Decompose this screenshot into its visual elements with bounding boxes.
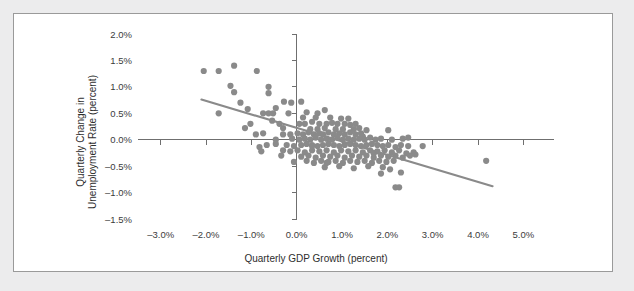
data-point bbox=[327, 114, 333, 120]
data-point bbox=[296, 121, 302, 127]
data-point bbox=[302, 136, 308, 142]
data-point bbox=[385, 142, 391, 148]
x-tick-label: 3.0% bbox=[422, 229, 444, 240]
y-tick-label: 1.0% bbox=[110, 81, 132, 92]
data-point bbox=[342, 121, 348, 127]
data-point bbox=[291, 159, 297, 165]
data-point bbox=[294, 147, 300, 153]
data-point bbox=[305, 152, 311, 158]
y-tick-label: 0.5% bbox=[110, 108, 132, 119]
data-point bbox=[298, 142, 304, 148]
data-point bbox=[420, 143, 426, 149]
data-point bbox=[400, 136, 406, 142]
data-point bbox=[338, 115, 344, 121]
data-point bbox=[383, 159, 389, 165]
data-point bbox=[273, 105, 279, 111]
x-tick-label: –2.0% bbox=[193, 229, 220, 240]
data-point bbox=[311, 160, 317, 166]
trendline bbox=[201, 100, 492, 187]
data-point bbox=[353, 147, 359, 153]
data-point bbox=[356, 125, 362, 131]
data-point bbox=[345, 136, 351, 142]
data-point bbox=[216, 110, 222, 116]
data-point bbox=[336, 163, 342, 169]
x-tick-labels: –3.0%–2.0%–1.0%0.0%1.0%2.0%3.0%4.0%5.0% bbox=[147, 229, 535, 240]
data-point bbox=[280, 131, 286, 137]
x-tick-label: 5.0% bbox=[513, 229, 535, 240]
data-point bbox=[362, 158, 368, 164]
data-point bbox=[396, 147, 402, 153]
data-point bbox=[347, 158, 353, 164]
data-point bbox=[256, 144, 262, 150]
data-point bbox=[360, 133, 366, 139]
data-point bbox=[280, 147, 286, 153]
data-point bbox=[365, 163, 371, 169]
data-point bbox=[227, 83, 233, 89]
data-point bbox=[298, 154, 304, 160]
data-point bbox=[314, 126, 320, 132]
data-point bbox=[260, 110, 266, 116]
data-point bbox=[298, 99, 304, 105]
x-tick-label: 4.0% bbox=[467, 229, 489, 240]
data-point bbox=[327, 154, 333, 160]
data-point bbox=[323, 160, 329, 166]
data-point bbox=[322, 107, 328, 113]
data-point bbox=[253, 131, 259, 137]
data-point bbox=[313, 135, 319, 141]
data-point bbox=[273, 141, 279, 147]
data-point bbox=[313, 114, 319, 120]
data-point bbox=[349, 152, 355, 158]
data-point bbox=[322, 125, 328, 131]
data-point bbox=[318, 158, 324, 164]
x-tick-label: 1.0% bbox=[331, 229, 353, 240]
data-point bbox=[378, 170, 384, 176]
data-point bbox=[323, 147, 329, 153]
x-tick-label: 0.0% bbox=[286, 229, 308, 240]
data-point bbox=[331, 142, 337, 148]
data-point bbox=[398, 142, 404, 148]
data-point bbox=[313, 155, 319, 161]
data-point bbox=[385, 127, 391, 133]
data-point bbox=[354, 159, 360, 165]
data-point bbox=[351, 126, 357, 132]
data-point bbox=[260, 130, 266, 136]
data-point bbox=[247, 121, 253, 127]
data-point bbox=[356, 154, 362, 160]
data-point bbox=[369, 141, 375, 147]
data-point bbox=[378, 136, 384, 142]
data-point bbox=[320, 152, 326, 158]
data-point bbox=[363, 152, 369, 158]
y-axis-title: Quarterly Change in Unemployment Rate (p… bbox=[75, 75, 98, 209]
data-point bbox=[407, 152, 413, 158]
data-point bbox=[398, 169, 404, 175]
data-point bbox=[294, 130, 300, 136]
data-point bbox=[374, 142, 380, 148]
data-point bbox=[288, 100, 294, 106]
data-point bbox=[287, 148, 293, 154]
data-point bbox=[304, 141, 310, 147]
y-tick-labels: –1.5%–1.0%–0.5%0.0%0.5%1.0%1.5%2.0% bbox=[105, 29, 132, 225]
y-tick-label: –0.5% bbox=[105, 161, 132, 172]
data-point bbox=[285, 110, 291, 116]
figure-frame: –3.0%–2.0%–1.0%0.0%1.0%2.0%3.0%4.0%5.0% … bbox=[13, 13, 613, 272]
data-point bbox=[405, 135, 411, 141]
y-tick-label: 1.5% bbox=[110, 55, 132, 66]
data-point bbox=[342, 155, 348, 161]
y-tick-label: 2.0% bbox=[110, 29, 132, 40]
data-point bbox=[231, 63, 237, 69]
data-point bbox=[278, 152, 284, 158]
data-point bbox=[340, 126, 346, 132]
data-point bbox=[265, 90, 271, 96]
data-point bbox=[320, 142, 326, 148]
data-point bbox=[302, 121, 308, 127]
scatter-plot: –3.0%–2.0%–1.0%0.0%1.0%2.0%3.0%4.0%5.0% … bbox=[14, 14, 614, 273]
data-point bbox=[389, 137, 395, 143]
data-point bbox=[380, 164, 386, 170]
data-point bbox=[329, 120, 335, 126]
svg-text:Unemployment Rate (percent): Unemployment Rate (percent) bbox=[87, 75, 98, 209]
data-point bbox=[284, 142, 290, 148]
data-point bbox=[296, 137, 302, 143]
data-point bbox=[351, 165, 357, 171]
data-point bbox=[270, 110, 276, 116]
x-axis-title: Quarterly GDP Growth (percent) bbox=[244, 253, 387, 264]
